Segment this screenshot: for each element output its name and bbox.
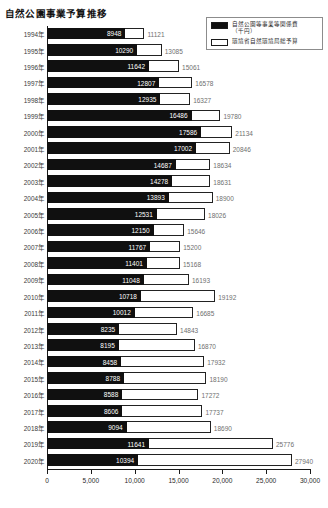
bar-row: 2015年181908788 [47,371,310,387]
category-label: 1995年 [24,46,44,55]
category-label: 2017年 [24,407,44,416]
category-label: 2008年 [24,259,44,268]
x-axis-tick-label: 0 [45,477,49,484]
x-axis-tick-label: 10,000 [125,477,145,484]
bar-expense: 17586 [47,126,201,138]
bar-expense: 11401 [47,257,147,269]
bar-rows: 1994年1112189481995年13085102901996年150611… [47,26,310,469]
bar-expense: 8458 [47,356,121,368]
category-label: 1999年 [24,112,44,121]
bar-expense: 8235 [47,323,119,335]
category-label: 2018年 [24,423,44,432]
bar-row: 2002年1863414687 [47,157,310,173]
bar-expense: 12531 [47,208,157,220]
category-label: 2006年 [24,227,44,236]
bar-row: 2005年1802612531 [47,206,310,222]
bar-row: 2009年1619311048 [47,272,310,288]
category-label: 2004年 [24,194,44,203]
x-axis-tick-label: 25,000 [256,477,276,484]
bar-expense: 16486 [47,110,192,122]
x-axis-tick-label: 5,000 [83,477,100,484]
bar-expense-value: 8948 [107,30,121,37]
category-label: 2015年 [24,374,44,383]
bar-total-value: 19780 [223,113,241,120]
bar-total-value: 11121 [147,31,164,38]
category-label: 2010年 [24,292,44,301]
bar-expense-value: 11642 [127,63,145,70]
bar-total-value: 17932 [207,359,225,366]
x-axis-tick-label: 30,000 [300,477,320,484]
bar-row: 1999年1978016486 [47,108,310,124]
bar-expense-value: 17002 [174,145,192,152]
bar-expense-value: 10290 [115,46,133,53]
bar-expense-value: 12807 [137,79,155,86]
category-label: 2002年 [24,161,44,170]
chart-container: 自然公園事業予算推移 自然公園等事業等関係費 （千円） 環境省自然環境局総予算 … [0,0,328,508]
bar-row: 2004年1890013893 [47,190,310,206]
bar-expense-value: 10394 [116,456,134,463]
bar-expense: 8948 [47,28,125,40]
bar-expense: 8195 [47,339,119,351]
bar-total-value: 16870 [198,342,216,349]
bar-expense: 10718 [47,290,141,302]
bar-expense: 11767 [47,241,150,253]
x-axis-tick-label: 15,000 [168,477,188,484]
bar-total-value: 25776 [276,441,294,448]
bar-total-value: 27940 [295,457,313,464]
bar-expense: 8588 [47,389,122,401]
category-label: 2013年 [24,341,44,350]
bar-row: 2019年2577611641 [47,436,310,452]
bar-expense-value: 11048 [122,276,140,283]
bar-row: 2011年1668510012 [47,305,310,321]
category-label: 2001年 [24,145,44,154]
bar-row: 2003年1863114278 [47,174,310,190]
bar-expense-value: 8588 [104,391,118,398]
category-label: 2016年 [24,391,44,400]
bar-total-value: 16327 [193,96,211,103]
bar-row: 1997年1657812807 [47,75,310,91]
bar-total-value: 18190 [209,375,227,382]
bar-total-value: 16193 [192,277,210,284]
bar-expense: 9094 [47,421,127,433]
category-label: 1996年 [24,63,44,72]
x-axis-tick [47,469,48,474]
category-label: 2003年 [24,177,44,186]
category-label: 2005年 [24,210,44,219]
bar-expense-value: 8788 [106,374,120,381]
bar-row: 1996年1506111642 [47,59,310,75]
bar-expense-value: 12935 [138,96,156,103]
x-axis-tick [310,469,311,474]
bar-expense: 10394 [47,454,138,466]
bar-expense-value: 11401 [125,260,143,267]
bar-expense: 14278 [47,175,172,187]
bar-expense-value: 10012 [113,309,131,316]
category-label: 2011年 [24,309,44,318]
bar-total-value: 18690 [214,424,232,431]
x-axis-tick-label: 20,000 [212,477,232,484]
bar-row: 2012年148438235 [47,321,310,337]
bar-expense-value: 12531 [135,210,153,217]
bar-total-value: 15061 [182,64,200,71]
bar-row: 1998年1632712935 [47,92,310,108]
bar-total-value: 16578 [195,80,213,87]
category-label: 2019年 [24,440,44,449]
bar-expense-value: 10718 [119,292,137,299]
bar-row: 1994年111218948 [47,26,310,42]
category-label: 2009年 [24,276,44,285]
bar-expense: 17002 [47,142,196,154]
bar-row: 2017年177378606 [47,403,310,419]
bar-row: 2013年168708195 [47,338,310,354]
bar-row: 2008年1516811401 [47,256,310,272]
bar-expense: 13893 [47,192,169,204]
bar-expense-value: 11767 [129,243,147,250]
bar-expense: 11642 [47,60,149,72]
x-axis-tick [135,469,136,474]
bar-expense: 14687 [47,159,176,171]
bar-total-value: 18900 [216,195,234,202]
chart-title: 自然公園事業予算推移 [5,6,107,20]
bar-row: 2020年2794010394 [47,453,310,469]
bar-expense-value: 16486 [169,112,187,119]
bar-total-value: 15200 [183,244,201,251]
bar-total-value: 18026 [208,211,226,218]
bar-row: 2014年179328458 [47,354,310,370]
